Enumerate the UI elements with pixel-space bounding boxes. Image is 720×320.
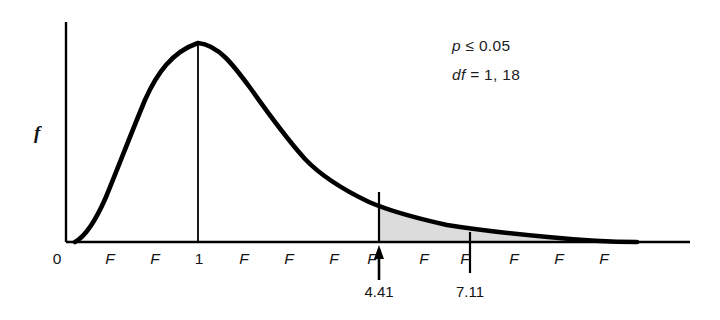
axis-tick-7: F (362, 250, 382, 268)
axis-tick-6: F (324, 250, 344, 268)
annotation-block: p ≤ 0.05 df = 1, 18 (452, 38, 652, 82)
axis-tick-8: F (414, 250, 434, 268)
axis-tick-5: F (279, 250, 299, 268)
critical-value-label-4-41: 4.41 (351, 283, 407, 300)
axis-tick-2: F (145, 250, 165, 268)
axis-tick-3: 1 (189, 250, 209, 268)
critical-value-label-7-11: 7.11 (442, 283, 498, 300)
annotation-df-rest: = 1, 18 (466, 66, 521, 83)
annotation-p-value: p ≤ 0.05 (452, 38, 652, 54)
axis-tick-11: F (549, 250, 569, 268)
annotation-df: df = 1, 18 (452, 67, 652, 83)
f-distribution-figure: f 0 F F 1 F F F F F F F F F 4.41 7.11 p … (0, 0, 720, 320)
annotation-df-symbol: df (452, 66, 466, 83)
annotation-p-symbol: p (452, 37, 461, 54)
axis-tick-9: F (455, 250, 475, 268)
axis-tick-4: F (234, 250, 254, 268)
rejection-region-shading (379, 203, 640, 242)
axis-tick-10: F (504, 250, 524, 268)
axis-tick-0: 0 (47, 250, 67, 268)
axis-tick-12: F (594, 250, 614, 268)
axis-tick-1: F (100, 250, 120, 268)
y-axis-label: f (34, 122, 40, 144)
annotation-p-rest: ≤ 0.05 (461, 37, 510, 54)
